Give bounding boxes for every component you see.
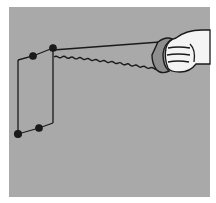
saw-cutting-illustration — [0, 0, 216, 203]
work-panel-icon — [15, 45, 57, 138]
saw-icon — [53, 38, 172, 73]
hand-icon — [165, 30, 210, 72]
